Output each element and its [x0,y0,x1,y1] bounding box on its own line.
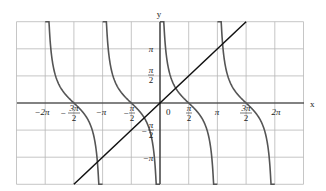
x-tick-pi2: π 2 [186,103,192,123]
numerator: π [187,103,192,113]
x-tick-negpi: −π [96,107,107,117]
y-tick-negpi: −π [143,153,154,163]
x-tick-neg2pi: −2π [34,107,50,117]
y-tick-pi2: π 2 [148,65,154,85]
x-tick-2pi: 2π [271,107,281,117]
denominator: 2 [244,113,249,123]
denominator: 2 [149,75,154,85]
numerator: π [149,120,154,130]
origin-label: 0 [166,107,171,117]
x-tick-pi: π [215,107,220,117]
x-tick-negpi2: − π 2 [123,103,135,123]
x-tick-neg3pi2: − 3π 2 [60,103,80,123]
denominator: 2 [187,113,192,123]
x-tick-3pi2: 3π 2 [240,103,252,123]
y-axis-label: y [157,9,162,19]
denominator: 2 [130,113,135,123]
minus-sign: − [141,126,146,136]
numerator: π [130,103,135,113]
x-axis-label: x [310,99,315,109]
denominator: 2 [149,130,154,140]
numerator: 3π [68,103,79,113]
minus-sign: − [60,108,65,118]
cot-and-identity-plot: y x −2π − 3π 2 −π − π 2 0 π 2 π 3π 2 2π … [0,0,326,191]
y-tick-pi: π [149,44,154,54]
denominator: 2 [72,113,77,123]
numerator: 3π [240,103,251,113]
minus-sign: − [123,108,128,118]
numerator: π [149,65,154,75]
